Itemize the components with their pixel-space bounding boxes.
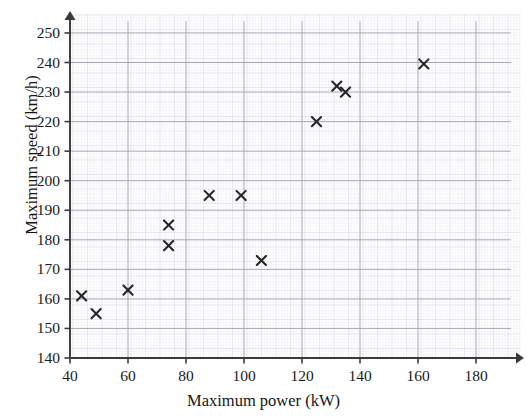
scatter-chart-figure: 140150160170180190200210220230240250 406… bbox=[0, 0, 527, 420]
x-tick-label: 60 bbox=[105, 367, 151, 385]
x-tick-label: 180 bbox=[453, 367, 499, 385]
grid-layer bbox=[70, 14, 521, 358]
y-tick-label: 150 bbox=[14, 319, 60, 337]
x-tick-label: 80 bbox=[163, 367, 209, 385]
x-tick-label: 160 bbox=[395, 367, 441, 385]
x-tick-label: 40 bbox=[47, 367, 93, 385]
plot-canvas bbox=[0, 0, 527, 420]
y-tick-label: 140 bbox=[14, 349, 60, 367]
x-tick-label: 120 bbox=[279, 367, 325, 385]
y-axis-title: Maximum speed (km/h) bbox=[22, 5, 42, 305]
x-tick-label: 100 bbox=[221, 367, 267, 385]
minor-grid-background bbox=[70, 14, 521, 358]
x-axis-title: Maximum power (kW) bbox=[0, 391, 527, 411]
x-tick-label: 140 bbox=[337, 367, 383, 385]
